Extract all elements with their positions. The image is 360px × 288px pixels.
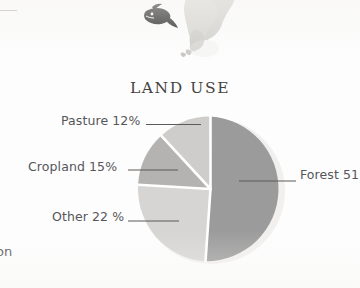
land-use-pie-chart bbox=[0, 0, 360, 288]
pie-label-forest: Forest 51 bbox=[300, 167, 359, 182]
pie-slice-other[interactable] bbox=[138, 185, 210, 261]
scanned-page: LAND USE Pasture 12% Cropland 15% O bbox=[0, 0, 360, 288]
clipped-body-text: on bbox=[0, 244, 12, 259]
pie-slice-forest[interactable] bbox=[206, 117, 278, 262]
pie-label-pasture: Pasture 12% bbox=[61, 113, 140, 128]
pie-label-other: Other 22 % bbox=[52, 209, 124, 224]
pie-label-cropland: Cropland 15% bbox=[28, 159, 117, 174]
clipped-rule-fragment bbox=[0, 10, 17, 11]
